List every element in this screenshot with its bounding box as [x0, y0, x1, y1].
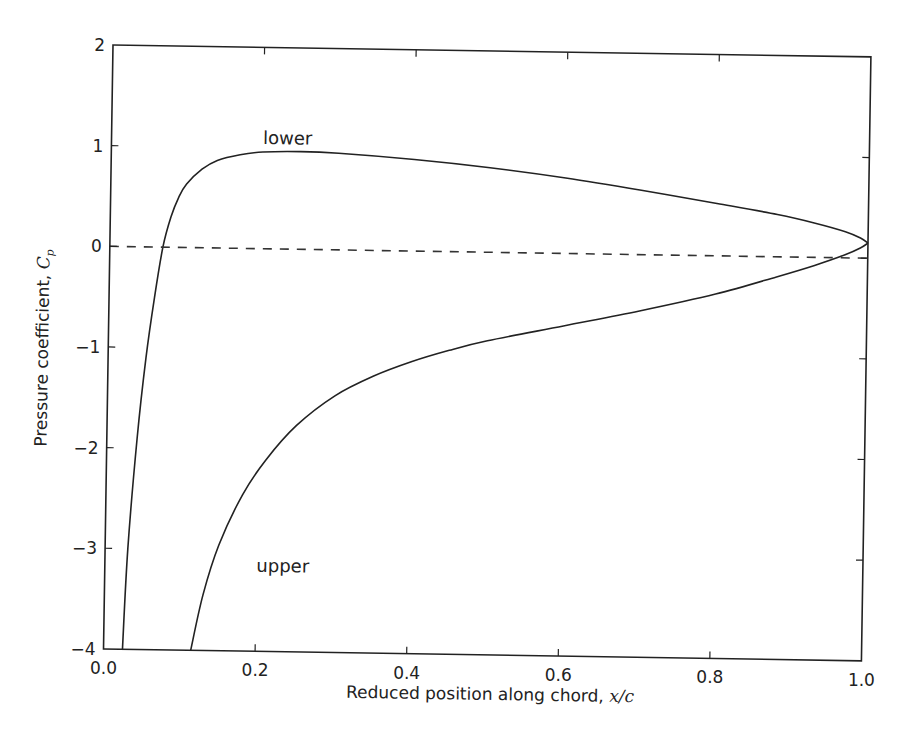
y-tick-labels: 210−1−2−3−4	[70, 35, 105, 659]
series-upper-line	[191, 233, 868, 661]
y-tick-label: −3	[72, 538, 97, 558]
series-layer	[104, 149, 870, 661]
x-axis-label: Reduced position along chord, x/c	[346, 682, 635, 707]
x-tick-label: 0.0	[90, 658, 117, 678]
y-tick-label: 2	[94, 35, 105, 55]
y-tick-label: −2	[74, 438, 99, 458]
y-tick-label: −1	[75, 337, 100, 357]
y-tick-label: 1	[93, 136, 104, 156]
x-tick-label: 1.0	[848, 670, 875, 690]
annotation-upper: upper	[256, 555, 310, 577]
y-axis-label-text: Pressure coefficient,	[30, 269, 53, 447]
x-tick-label: 0.2	[242, 660, 269, 680]
x-tick-label: 0.8	[696, 667, 723, 687]
pressure-coefficient-chart: lower upper 0.00.20.40.60.81.0 210−1−2−3…	[0, 0, 921, 748]
y-axis-label: Pressure coefficient, Cp	[30, 249, 56, 447]
y-axis-label-math: C	[33, 256, 53, 269]
x-tick-label: 0.4	[393, 663, 420, 683]
y-tick-label: −4	[70, 639, 95, 659]
y-tick-label: 0	[91, 236, 102, 256]
x-axis-label-text: Reduced position along chord,	[346, 682, 609, 706]
series-lower-line	[122, 149, 869, 661]
y-axis-label-sub: p	[43, 249, 56, 256]
annotation-lower: lower	[263, 127, 313, 149]
ticks-layer	[104, 45, 871, 661]
plot-area: lower upper	[104, 45, 871, 661]
x-tick-label: 0.6	[545, 665, 572, 685]
series-zero-reference-line	[110, 246, 868, 258]
plot-frame	[104, 45, 871, 661]
x-axis-label-math: x/c	[609, 686, 635, 706]
